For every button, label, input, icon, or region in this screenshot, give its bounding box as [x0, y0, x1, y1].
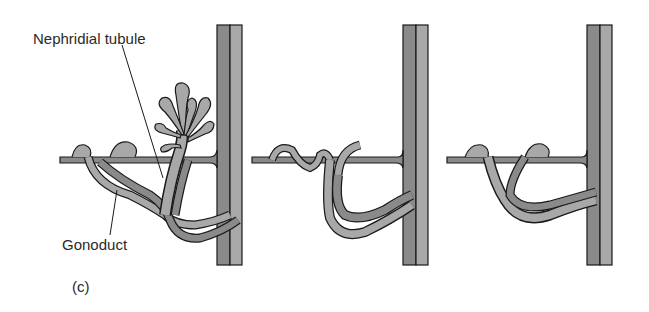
- panel-3: [447, 25, 612, 265]
- panel-label: (c): [72, 278, 90, 295]
- nephridial-tubule-label: Nephridial tubule: [33, 30, 146, 47]
- gonoduct-label: Gonoduct: [62, 236, 127, 253]
- diagram-figure: Nephridial tubule Gonoduct (c): [0, 0, 649, 312]
- panel-2: [252, 25, 428, 265]
- panel-1: [60, 25, 242, 265]
- gonoduct-leader: [110, 190, 117, 235]
